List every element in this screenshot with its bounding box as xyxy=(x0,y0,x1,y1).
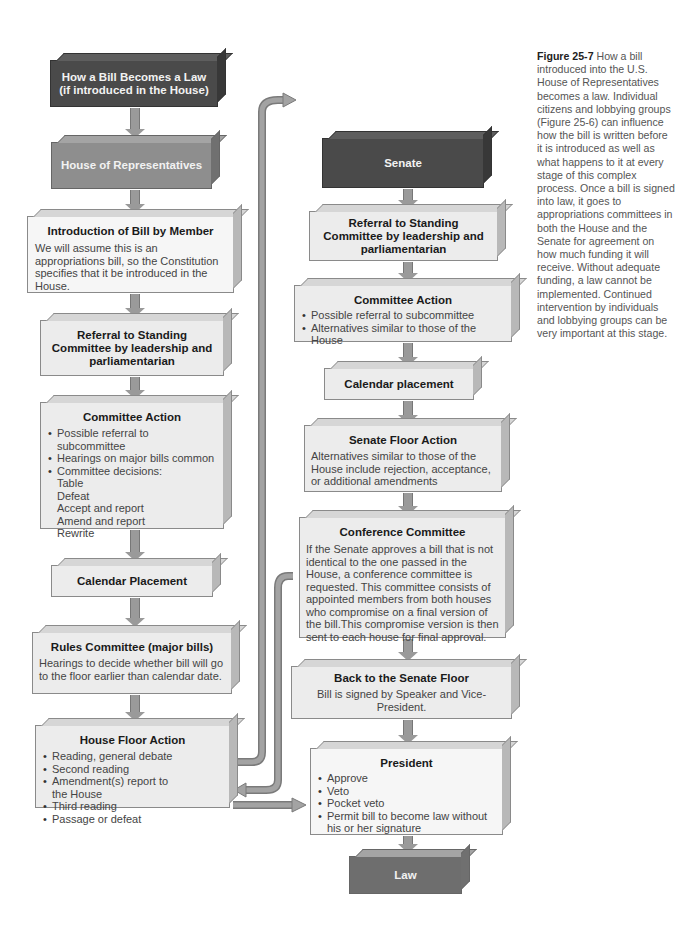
list-item: Veto xyxy=(317,785,496,798)
introduction-text: We will assume this is an appropriations… xyxy=(35,242,226,292)
back-to-senate-floor-box: Back to the Senate Floor Bill is signed … xyxy=(291,666,512,719)
house-floor-action-title: House Floor Action xyxy=(42,734,223,747)
conference-committee-box: Conference Committee If the Senate appro… xyxy=(299,517,506,638)
senate-chamber-title: Senate xyxy=(331,157,475,170)
senate-floor-action-title: Senate Floor Action xyxy=(311,434,495,447)
header-title: How a Bill Becomes a Law (if introduced … xyxy=(59,71,209,97)
list-item: Third reading xyxy=(42,800,223,813)
senate-floor-action-box: Senate Floor Action Alternatives similar… xyxy=(304,425,502,492)
back-to-senate-floor-title: Back to the Senate Floor xyxy=(306,672,497,685)
senate-chamber-box: Senate xyxy=(322,138,484,188)
senate-referral-title: Referral to Standing Committee by leader… xyxy=(318,217,489,256)
president-list: Approve Veto Pocket veto Permit bill to … xyxy=(317,772,496,835)
house-chamber-box: House of Representatives xyxy=(51,142,212,189)
down-arrow-icon xyxy=(130,108,140,130)
figure-caption: Figure 25-7 How a bill introduced into t… xyxy=(537,50,675,340)
down-arrow-icon xyxy=(403,493,413,507)
law-box: Law xyxy=(349,856,462,894)
introduction-title: Introduction of Bill by Member xyxy=(35,225,226,238)
introduction-box: Introduction of Bill by Member We will a… xyxy=(27,216,234,293)
house-referral-box: Referral to Standing Committee by leader… xyxy=(40,320,224,376)
president-title: President xyxy=(317,757,496,770)
rules-committee-box: Rules Committee (major bills) Hearings t… xyxy=(32,632,232,694)
conference-committee-title: Conference Committee xyxy=(306,526,499,539)
header-box: How a Bill Becomes a Law (if introduced … xyxy=(50,60,218,107)
senate-committee-action-title: Committee Action xyxy=(301,294,505,307)
house-committee-action-box: Committee Action Possible referral to su… xyxy=(40,402,224,529)
figure-label: Figure 25-7 xyxy=(537,50,594,62)
house-committee-action-list: Possible referral to subcommittee Hearin… xyxy=(47,427,217,540)
down-arrow-icon xyxy=(403,262,413,274)
list-item: Hearings on major bills common xyxy=(47,452,217,465)
senate-calendar-box: Calendar placement xyxy=(324,368,474,400)
down-arrow-icon xyxy=(403,720,413,736)
list-item: Permit bill to become law without his or… xyxy=(317,810,496,835)
arrowhead-icon xyxy=(283,93,296,107)
rules-committee-title: Rules Committee (major bills) xyxy=(39,641,225,654)
president-box: President Approve Veto Pocket veto Permi… xyxy=(310,748,503,835)
conference-to-house-connector xyxy=(245,576,293,790)
house-calendar-title: Calendar Placement xyxy=(60,575,204,588)
down-arrow-icon xyxy=(130,294,140,309)
house-committee-action-title: Committee Action xyxy=(47,411,217,424)
list-item: Possible referral to subcommittee xyxy=(47,427,217,452)
list-item: Possible referral to subcommittee xyxy=(301,309,505,322)
down-arrow-icon xyxy=(130,377,140,391)
list-item: Committee decisions: xyxy=(47,465,217,478)
down-arrow-icon xyxy=(403,836,413,845)
list-subitem: Defeat xyxy=(47,490,217,503)
house-floor-action-list: Reading, general debate Second reading A… xyxy=(42,750,223,825)
house-floor-action-box: House Floor Action Reading, general deba… xyxy=(35,725,230,808)
down-arrow-icon xyxy=(403,401,413,416)
down-arrow-icon xyxy=(403,189,413,201)
back-to-senate-floor-text: Bill is signed by Speaker and Vice-Presi… xyxy=(306,688,497,713)
rules-committee-text: Hearings to decide whether bill will go … xyxy=(39,657,225,682)
list-item: Pocket veto xyxy=(317,797,496,810)
down-arrow-icon xyxy=(130,190,140,205)
down-arrow-icon xyxy=(130,598,140,619)
conference-committee-text: If the Senate approves a bill that is no… xyxy=(306,543,499,643)
law-title: Law xyxy=(358,869,453,882)
figure-caption-text: How a bill introduced into the U.S. Hous… xyxy=(537,50,675,339)
list-item: Approve xyxy=(317,772,496,785)
list-subitem: Table xyxy=(47,477,217,490)
senate-floor-action-text: Alternatives similar to those of the Hou… xyxy=(311,450,495,488)
list-item: Passage or defeat xyxy=(42,813,223,826)
house-chamber-title: House of Representatives xyxy=(60,159,203,172)
list-item: Amendment(s) report to the House xyxy=(42,775,223,800)
list-item: Alternatives similar to those of the Hou… xyxy=(301,322,505,347)
arrowhead-icon xyxy=(292,798,306,812)
senate-committee-action-list: Possible referral to subcommittee Altern… xyxy=(301,309,505,347)
list-item: Second reading xyxy=(42,763,223,776)
list-subitem: Accept and report xyxy=(47,502,217,515)
list-subitem: Rewrite xyxy=(47,527,217,540)
senate-referral-box: Referral to Standing Committee by leader… xyxy=(309,211,498,261)
house-calendar-box: Calendar Placement xyxy=(51,565,213,597)
senate-committee-action-box: Committee Action Possible referral to su… xyxy=(294,285,512,342)
house-referral-title: Referral to Standing Committee by leader… xyxy=(49,329,215,368)
list-item: Reading, general debate xyxy=(42,750,223,763)
senate-calendar-title: Calendar placement xyxy=(333,378,465,391)
down-arrow-icon xyxy=(130,695,140,713)
list-subitem: Amend and report xyxy=(47,515,217,528)
